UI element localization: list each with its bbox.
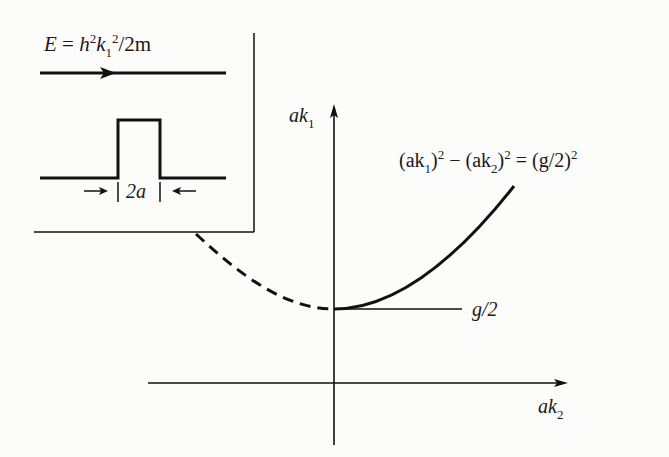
inset-box	[34, 33, 254, 232]
g-half-label: g/2	[472, 298, 498, 321]
curve-equation: (ak1)2 − (ak2)2 = (g/2)2	[399, 147, 577, 176]
barrier-width-label: 2a	[126, 180, 146, 202]
hyperbola-dashed-curve	[196, 234, 334, 309]
incident-wave-arrow	[40, 67, 226, 79]
y-axis	[330, 104, 338, 445]
x-axis-label: ak2	[538, 395, 563, 422]
figure-canvas: E = h2k12/2m 2a ak1 ak2 g/2 (ak1)2 − (ak…	[0, 0, 669, 457]
energy-label: E = h2k12/2m	[43, 31, 151, 60]
hyperbola-solid-curve	[334, 186, 514, 309]
y-axis-label: ak1	[289, 104, 314, 131]
x-axis	[148, 379, 568, 387]
potential-barrier	[40, 120, 226, 178]
